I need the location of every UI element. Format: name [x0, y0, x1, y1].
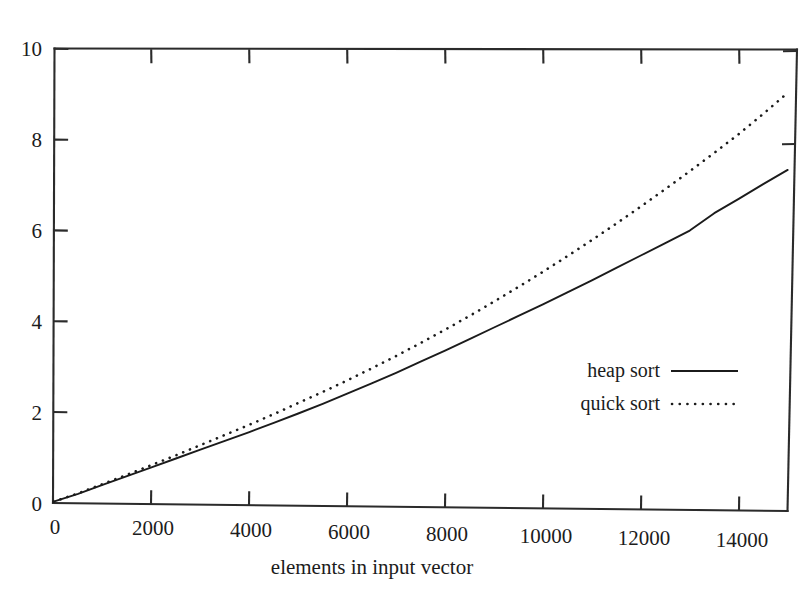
x-tick-label-6000: 6000 — [328, 520, 370, 544]
legend-label-quick-sort: quick sort — [581, 392, 661, 415]
x-tick-label-10000: 10000 — [520, 524, 573, 548]
series-heap-sort-line — [54, 170, 788, 502]
y-tick-label-8: 8 — [32, 128, 43, 152]
legend: heap sort quick sort — [581, 359, 738, 415]
y-axis-ticks — [53, 49, 68, 412]
frame-left-border — [53, 49, 55, 504]
frame-top-border — [55, 49, 798, 50]
x-tick-label-2000: 2000 — [132, 516, 174, 540]
x-axis-title: elements in input vector — [271, 555, 473, 579]
frame-bottom-border — [53, 503, 788, 511]
x-tick-label-8000: 8000 — [426, 522, 468, 546]
y-tick-label-10: 10 — [21, 37, 42, 61]
frame-right-border — [788, 50, 798, 512]
chart-figure: 10 8 6 4 2 0 0 2000 4000 6000 8000 10000… — [0, 0, 811, 595]
series-quick-sort-line — [54, 93, 788, 502]
x-tick-labels: 0 2000 4000 6000 8000 10000 12000 14000 — [50, 515, 769, 552]
x-tick-label-0: 0 — [50, 515, 61, 539]
data-series-group — [54, 93, 788, 502]
x-axis-ticks-top — [151, 49, 739, 64]
y-tick-label-0: 0 — [32, 492, 43, 516]
y-tick-labels: 10 8 6 4 2 0 — [21, 37, 43, 516]
y-tick-label-2: 2 — [32, 401, 43, 425]
x-tick-label-4000: 4000 — [230, 518, 272, 542]
x-tick-label-12000: 12000 — [618, 526, 671, 550]
y-tick-label-4: 4 — [32, 310, 43, 334]
y-tick-label-6: 6 — [32, 219, 43, 243]
legend-label-heap-sort: heap sort — [587, 359, 660, 382]
x-tick-label-14000: 14000 — [716, 528, 769, 552]
plot-frame — [53, 49, 797, 512]
line-chart-canvas: 10 8 6 4 2 0 0 2000 4000 6000 8000 10000… — [0, 0, 811, 595]
